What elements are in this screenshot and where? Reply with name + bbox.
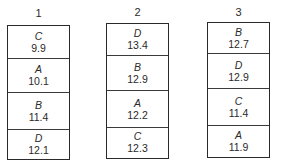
plot-value: 9.9 bbox=[31, 42, 46, 55]
plot-value: 12.7 bbox=[228, 38, 248, 51]
plot-cell: B 12.7 bbox=[208, 23, 269, 53]
treatment-letter: A bbox=[134, 97, 141, 109]
plot-cell: C 9.9 bbox=[8, 26, 69, 58]
plot-value: 13.4 bbox=[127, 39, 147, 52]
treatment-letter: B bbox=[134, 61, 141, 73]
plot-cell: A 10.1 bbox=[8, 58, 69, 92]
block-box: D 13.4 B 12.9 A 12.2 C 12.3 bbox=[106, 23, 169, 159]
plot-value: 11.9 bbox=[229, 141, 249, 154]
column-2: 2 D 13.4 B 12.9 A 12.2 C 12.3 bbox=[106, 0, 169, 164]
treatment-letter: D bbox=[35, 132, 43, 144]
column-number: 2 bbox=[106, 6, 169, 18]
plot-value: 12.3 bbox=[127, 142, 147, 155]
plot-cell: C 12.3 bbox=[107, 127, 168, 157]
plot-value: 10.1 bbox=[28, 75, 48, 88]
plot-cell: B 12.9 bbox=[107, 55, 168, 90]
treatment-letter: C bbox=[134, 130, 142, 142]
column-1: 1 C 9.9 A 10.1 B 11.4 D 12.1 bbox=[7, 0, 70, 164]
plot-cell: A 11.9 bbox=[208, 125, 269, 156]
plot-value: 12.2 bbox=[127, 109, 147, 122]
plot-cell: C 11.4 bbox=[208, 88, 269, 125]
plot-cell: D 13.4 bbox=[107, 24, 168, 55]
plot-cell: D 12.9 bbox=[208, 53, 269, 88]
treatment-letter: D bbox=[134, 27, 142, 39]
plot-cell: B 11.4 bbox=[8, 92, 69, 129]
block-box: C 9.9 A 10.1 B 11.4 D 12.1 bbox=[7, 25, 70, 160]
treatment-letter: D bbox=[235, 59, 243, 71]
column-3: 3 B 12.7 D 12.9 C 11.4 A 11.9 bbox=[207, 0, 270, 164]
column-number: 1 bbox=[7, 7, 70, 19]
column-number: 3 bbox=[207, 6, 270, 18]
plot-value: 12.9 bbox=[127, 73, 147, 86]
treatment-letter: C bbox=[35, 30, 43, 42]
treatment-letter: B bbox=[35, 99, 42, 111]
plot-cell: D 12.1 bbox=[8, 129, 69, 158]
plot-cell: A 12.2 bbox=[107, 90, 168, 127]
treatment-letter: B bbox=[235, 26, 242, 38]
block-box: B 12.7 D 12.9 C 11.4 A 11.9 bbox=[207, 22, 270, 158]
plot-value: 12.9 bbox=[228, 71, 248, 84]
treatment-letter: A bbox=[35, 63, 42, 75]
plot-value: 12.1 bbox=[28, 144, 48, 157]
plot-value: 11.4 bbox=[229, 107, 249, 120]
treatment-letter: C bbox=[235, 95, 243, 107]
plot-value: 11.4 bbox=[29, 111, 49, 124]
treatment-letter: A bbox=[235, 129, 242, 141]
